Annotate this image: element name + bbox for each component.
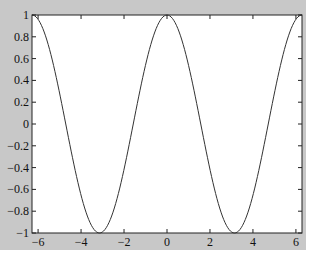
y-tick-label: −0.8: [7, 204, 29, 218]
y-tick-label: 1: [23, 8, 29, 22]
y-tick-label: −1: [16, 226, 29, 240]
x-tick-label: −4: [75, 235, 88, 249]
cosine-line-chart: −6−4−2024610.80.60.40.20−0.2−0.4−0.6−0.8…: [0, 0, 310, 258]
x-tick-label: −6: [32, 235, 45, 249]
x-tick-label: 4: [250, 235, 256, 249]
y-tick-label: 0.2: [14, 95, 29, 109]
y-tick-label: 0.6: [14, 52, 29, 66]
y-tick-label: −0.2: [7, 139, 29, 153]
x-tick-label: 0: [164, 235, 170, 249]
plot-area: [32, 15, 302, 233]
x-tick-label: −2: [118, 235, 131, 249]
y-tick-label: 0.4: [14, 73, 29, 87]
y-tick-label: −0.4: [7, 161, 29, 175]
y-tick-label: −0.6: [7, 182, 29, 196]
y-tick-label: 0: [23, 117, 29, 131]
x-tick-label: 2: [207, 235, 213, 249]
y-tick-label: 0.8: [14, 30, 29, 44]
x-tick-label: 6: [293, 235, 299, 249]
